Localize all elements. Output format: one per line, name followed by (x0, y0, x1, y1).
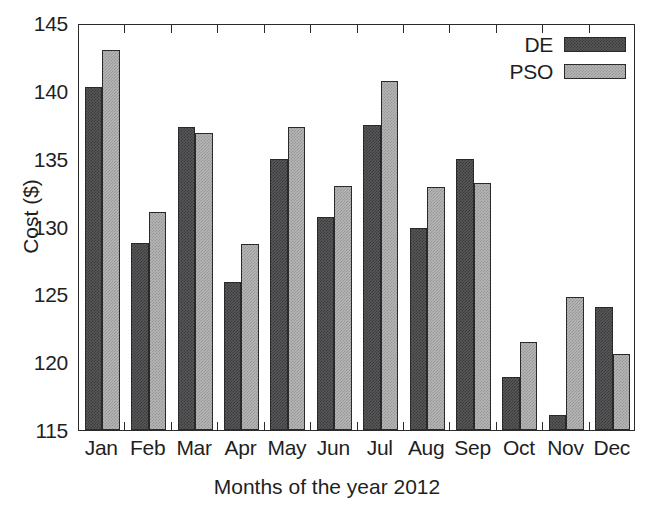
bar-de-jan (85, 87, 103, 430)
x-tick-mark (449, 422, 450, 431)
x-tick-mark (496, 422, 497, 431)
bar-de-may (270, 159, 288, 430)
x-tick-mark (403, 422, 404, 431)
bar-pso-oct (520, 342, 538, 430)
bar-de-mar (178, 127, 196, 430)
y-tick-label: 130 (8, 217, 68, 238)
bar-pso-may (288, 127, 306, 430)
bar-de-dec (595, 307, 613, 430)
bar-de-aug (410, 228, 428, 430)
x-tick-mark (449, 24, 450, 33)
x-tick-mark (217, 422, 218, 431)
x-tick-mark (124, 24, 125, 33)
bar-de-jul (363, 125, 381, 430)
x-tick-mark (171, 24, 172, 33)
bar-de-sep (456, 159, 474, 430)
x-axis-title: Months of the year 2012 (0, 476, 654, 498)
plot-area (79, 25, 634, 430)
bar-pso-feb (149, 212, 167, 430)
bar-de-oct (502, 377, 520, 430)
bar-pso-aug (427, 187, 445, 430)
y-tick-label: 135 (8, 149, 68, 170)
bar-pso-jan (102, 50, 120, 430)
legend-item-pso: PSO (510, 61, 626, 82)
bar-pso-apr (241, 244, 259, 430)
x-tick-mark (542, 422, 543, 431)
bar-chart-figure: Cost ($) 115120125130135140145 JanFebMar… (0, 0, 654, 520)
legend-swatch-de (564, 37, 626, 52)
x-tick-mark (171, 422, 172, 431)
y-tick-label: 145 (8, 13, 68, 34)
x-tick-mark (310, 422, 311, 431)
legend-item-de: DE (524, 34, 626, 55)
y-tick-label: 120 (8, 352, 68, 373)
x-tick-mark (589, 24, 590, 33)
x-tick-mark (264, 24, 265, 33)
bar-pso-nov (566, 297, 584, 430)
x-tick-mark (217, 24, 218, 33)
chart-legend: DEPSO (510, 34, 626, 82)
x-tick-mark (496, 24, 497, 33)
y-tick-label: 115 (8, 420, 68, 441)
x-tick-mark (264, 422, 265, 431)
bar-pso-mar (195, 133, 213, 430)
x-tick-mark (403, 24, 404, 33)
bar-pso-jun (334, 186, 352, 430)
legend-swatch-pso (564, 64, 626, 79)
x-tick-mark (589, 422, 590, 431)
bar-pso-jul (381, 81, 399, 430)
bar-pso-dec (613, 354, 631, 430)
x-tick-mark (357, 24, 358, 33)
bar-pso-sep (474, 183, 492, 430)
bar-de-apr (224, 282, 242, 430)
x-tick-mark (124, 422, 125, 431)
legend-label-de: DE (524, 34, 553, 55)
plot-frame (78, 24, 635, 431)
bar-de-nov (549, 415, 567, 430)
bar-de-jun (317, 217, 335, 430)
x-tick-mark (357, 422, 358, 431)
x-tick-label-dec: Dec (572, 437, 652, 459)
x-tick-mark (310, 24, 311, 33)
y-tick-label: 125 (8, 284, 68, 305)
y-tick-label: 140 (8, 81, 68, 102)
legend-label-pso: PSO (510, 61, 553, 82)
x-tick-mark (542, 24, 543, 33)
bar-de-feb (131, 243, 149, 430)
